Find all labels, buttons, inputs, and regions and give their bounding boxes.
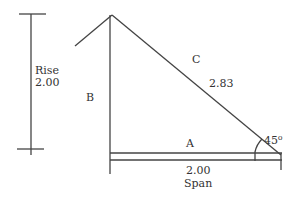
roof-overhang-line xyxy=(75,15,112,46)
side-b-label: B xyxy=(86,91,94,104)
roof-pitch-diagram: Rise 2.00 B C 2.83 A 2.00 Span 45⁰ xyxy=(0,0,301,199)
side-c-label: C xyxy=(192,53,200,66)
span-value-label: 2.00 xyxy=(186,164,211,177)
triangle xyxy=(75,15,282,174)
side-c-hypotenuse xyxy=(112,15,281,155)
span-title-label: Span xyxy=(184,177,212,190)
hypotenuse-value-label: 2.83 xyxy=(209,77,234,90)
side-a-label: A xyxy=(185,137,195,150)
rise-value-label: 2.00 xyxy=(35,76,60,89)
angle-label: 45⁰ xyxy=(264,134,283,147)
angle-arc xyxy=(255,139,262,161)
